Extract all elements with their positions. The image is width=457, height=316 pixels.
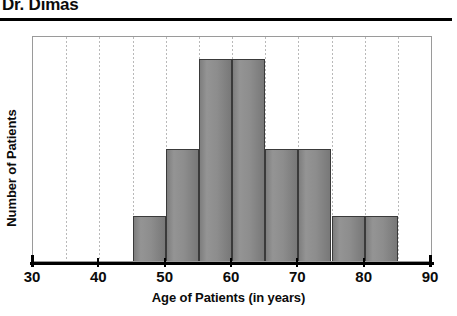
header-divider — [0, 18, 452, 21]
page-title: Dr. Dimas — [2, 0, 79, 15]
histogram-bar — [166, 149, 199, 261]
bars-group — [33, 37, 431, 261]
x-axis-tick — [363, 258, 365, 267]
x-axis-tick-labels: 30405060708090 — [0, 268, 457, 288]
x-axis-tick-label: 90 — [422, 268, 439, 285]
x-axis-tick-label: 50 — [156, 268, 173, 285]
chart-page: Dr. Dimas Number of Patients 30405060708… — [0, 0, 457, 316]
x-axis-line — [30, 262, 434, 265]
x-axis-tick-label: 80 — [355, 268, 372, 285]
x-axis-tick — [296, 258, 298, 267]
histogram-bar — [332, 216, 365, 261]
x-axis-tick — [164, 258, 166, 267]
histogram-bar — [133, 216, 166, 261]
histogram-bar — [232, 59, 265, 261]
histogram-bar — [298, 149, 331, 261]
plot-area — [32, 36, 432, 262]
histogram-figure: Number of Patients 30405060708090 Age of… — [0, 22, 457, 316]
x-axis-tick — [31, 255, 34, 267]
x-axis-tick — [429, 255, 432, 267]
x-axis-tick-label: 30 — [24, 268, 41, 285]
x-axis-tick-label: 40 — [90, 268, 107, 285]
x-axis-tick — [97, 258, 99, 267]
x-axis-title: Age of Patients (in years) — [0, 290, 457, 305]
histogram-bar — [365, 216, 398, 261]
x-axis-tick-label: 70 — [289, 268, 306, 285]
x-axis-tick-label: 60 — [223, 268, 240, 285]
y-axis-title: Number of Patients — [4, 109, 19, 226]
x-axis-tick — [230, 258, 232, 267]
y-axis-title-container: Number of Patients — [0, 60, 24, 275]
histogram-bar — [199, 59, 232, 261]
histogram-bar — [265, 149, 298, 261]
